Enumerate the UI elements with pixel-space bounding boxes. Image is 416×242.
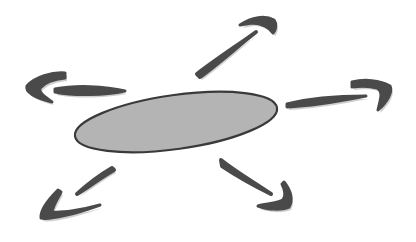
arrow-down-right [221,160,291,209]
arrow-right [287,80,391,110]
arrow-up-right [197,17,276,77]
arrow-left [27,73,125,102]
arrow-down-left [41,168,114,218]
hub-spoke-diagram [0,0,416,242]
